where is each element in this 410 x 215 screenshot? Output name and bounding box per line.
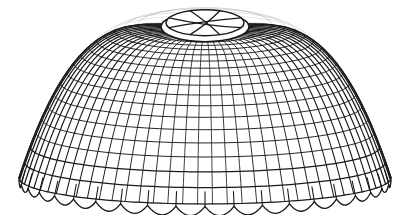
rim-tick: [233, 191, 234, 206]
oculus-inner-opening: [166, 10, 244, 36]
figure-canvas: Dome mesh canopy line drawing Perspectiv…: [0, 0, 410, 215]
rim-tick: [176, 191, 177, 206]
oculus-ring: [161, 10, 249, 42]
dome-mesh-figure: Dome mesh canopy line drawing Perspectiv…: [0, 0, 410, 215]
